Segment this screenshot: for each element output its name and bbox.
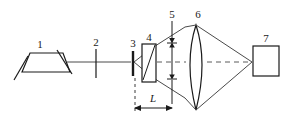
label-component-7: 7 bbox=[263, 32, 269, 44]
label-component-2: 2 bbox=[93, 36, 99, 48]
diagram-canvas: 1 2 3 4 bbox=[0, 0, 285, 125]
component-4-crystal-block bbox=[142, 44, 156, 82]
label-component-4: 4 bbox=[146, 31, 152, 43]
component-1-trapezoid-source bbox=[14, 50, 72, 80]
dimension-L bbox=[134, 105, 173, 111]
label-component-3: 3 bbox=[130, 37, 136, 49]
component-7-detector-box bbox=[253, 46, 279, 76]
component-6-biconvex-lens bbox=[190, 25, 202, 110]
label-component-1: 1 bbox=[37, 38, 43, 50]
beam-path-converging bbox=[185, 25, 252, 110]
label-component-5: 5 bbox=[169, 8, 175, 20]
label-component-6: 6 bbox=[195, 8, 201, 20]
optical-system-diagram: 1 2 3 4 bbox=[0, 0, 285, 125]
label-dimension-L: L bbox=[149, 92, 156, 104]
